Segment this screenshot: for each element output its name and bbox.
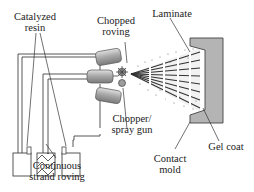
label-chopped-line2: roving xyxy=(94,26,138,37)
label-continuous-strand-roving: Continuous strand roving xyxy=(22,160,92,182)
label-laminate: Laminate xyxy=(147,8,197,19)
nozzle-top xyxy=(95,48,122,66)
label-strand-line2: strand roving xyxy=(22,171,92,182)
spray-up-diagram: Catalyzed resin Chopped roving Laminate … xyxy=(0,0,254,192)
chopper-icon xyxy=(113,66,128,87)
label-strand-line1: Continuous xyxy=(22,160,92,171)
label-chopper-line1: Chopper/ xyxy=(106,113,158,124)
label-contact-line1: Contact xyxy=(149,153,191,164)
label-chopped-roving: Chopped roving xyxy=(94,15,138,37)
label-chopper-spray-gun: Chopper/ spray gun xyxy=(106,113,158,135)
nozzle-middle xyxy=(87,70,113,83)
nozzle-bottom xyxy=(95,87,122,104)
label-chopper-line2: spray gun xyxy=(106,124,158,135)
spray-cone xyxy=(130,46,200,112)
label-contact-line2: mold xyxy=(149,164,191,175)
label-chopped-line1: Chopped xyxy=(94,15,138,26)
label-gel-coat: Gel coat xyxy=(203,141,249,152)
label-contact-mold: Contact mold xyxy=(149,153,191,175)
label-catalyzed-line1: Catalyzed xyxy=(8,11,62,22)
label-catalyzed-resin: Catalyzed resin xyxy=(8,11,62,33)
label-catalyzed-line2: resin xyxy=(8,22,62,33)
